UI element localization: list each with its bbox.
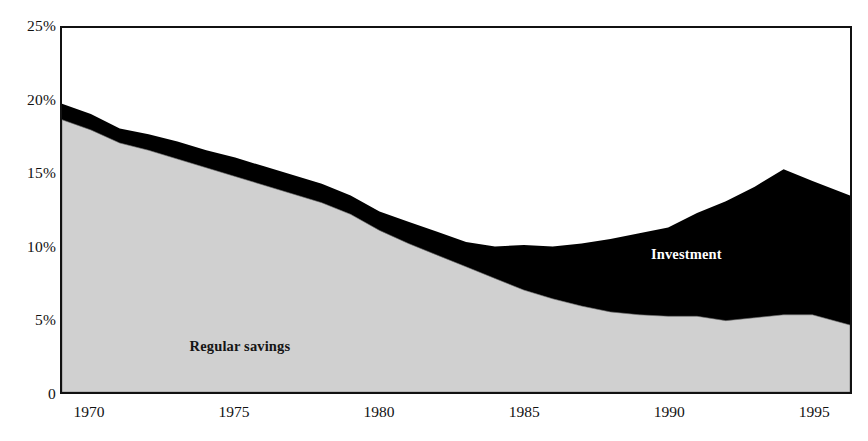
x-tick-label-1980: 1980 — [364, 404, 395, 420]
y-tick-label-15: 15% — [4, 165, 56, 181]
x-tick-label-1975: 1975 — [219, 404, 250, 420]
y-axis: 25% 20% 15% 10% 5% 0 — [0, 0, 56, 441]
y-tick-label-25: 25% — [4, 18, 56, 34]
area-chart: 25% 20% 15% 10% 5% 0 Regular savings Inv… — [0, 0, 868, 441]
x-tick-label-1970: 1970 — [74, 404, 105, 420]
x-tick-label-1985: 1985 — [509, 404, 540, 420]
x-axis: 1970 1975 1980 1985 1990 1995 — [0, 404, 868, 430]
plot-svg — [62, 28, 850, 392]
plot-area: Regular savings Investment — [60, 26, 852, 394]
y-tick-label-10: 10% — [4, 239, 56, 255]
series-label-regular-savings: Regular savings — [190, 339, 291, 354]
x-tick-label-1990: 1990 — [654, 404, 685, 420]
y-tick-label-0: 0 — [4, 386, 56, 402]
x-tick-label-1995: 1995 — [799, 404, 830, 420]
y-tick-label-20: 20% — [4, 92, 56, 108]
series-label-investment: Investment — [651, 247, 722, 262]
y-tick-label-5: 5% — [4, 312, 56, 328]
